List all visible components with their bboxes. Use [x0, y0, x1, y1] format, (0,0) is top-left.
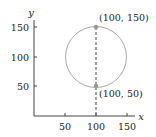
x-tick-label: 50: [59, 121, 71, 132]
y-axis-label: y: [27, 7, 34, 18]
point-label-bottom: (100, 50): [99, 88, 143, 99]
y-tick-label: 100: [11, 52, 29, 63]
y-tick-label: 50: [17, 81, 29, 92]
chart: 150 100 50 50 100 150 y x (100, 150) (10…: [0, 0, 156, 137]
x-tick-label: 150: [118, 121, 136, 132]
y-tick-label: 150: [11, 22, 29, 33]
point-top: [94, 25, 99, 30]
x-tick-label: 100: [87, 121, 105, 132]
point-bottom: [94, 84, 99, 89]
point-label-top: (100, 150): [99, 12, 149, 23]
x-axis-label: x: [138, 111, 144, 122]
